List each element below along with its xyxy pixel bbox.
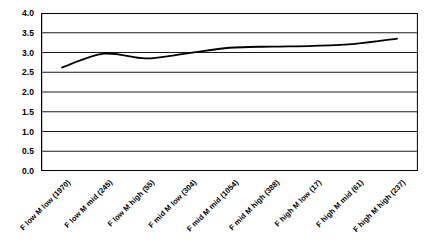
gridlines	[41, 14, 418, 171]
data-series-line	[62, 39, 397, 68]
y-tick-label: 1.0	[22, 127, 34, 136]
y-tick-label: 2.0	[22, 88, 34, 97]
y-tick-label: 0.5	[22, 147, 34, 156]
y-tick-label: 3.0	[22, 48, 34, 57]
line-chart: 4.03.53.02.52.01.51.00.50.0 F low M low …	[0, 0, 431, 246]
y-tick-label: 1.5	[22, 107, 34, 116]
y-tick-label: 0.0	[22, 167, 34, 176]
y-tick-label: 3.5	[22, 28, 34, 37]
plot-svg	[41, 13, 418, 171]
y-tick-label: 2.5	[22, 68, 34, 77]
x-axis-tick-labels: F low M low (1970)F low M mid (245)F low…	[0, 176, 431, 246]
y-tick-label: 4.0	[22, 9, 34, 18]
plot-area	[41, 13, 418, 171]
